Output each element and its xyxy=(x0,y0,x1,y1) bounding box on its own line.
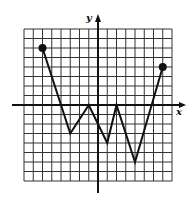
coordinate-axes xyxy=(12,14,186,193)
y-axis-label: y xyxy=(86,12,92,23)
piecewise-line xyxy=(39,44,167,162)
x-axis-label: x xyxy=(176,106,182,117)
function-graph xyxy=(0,0,193,204)
